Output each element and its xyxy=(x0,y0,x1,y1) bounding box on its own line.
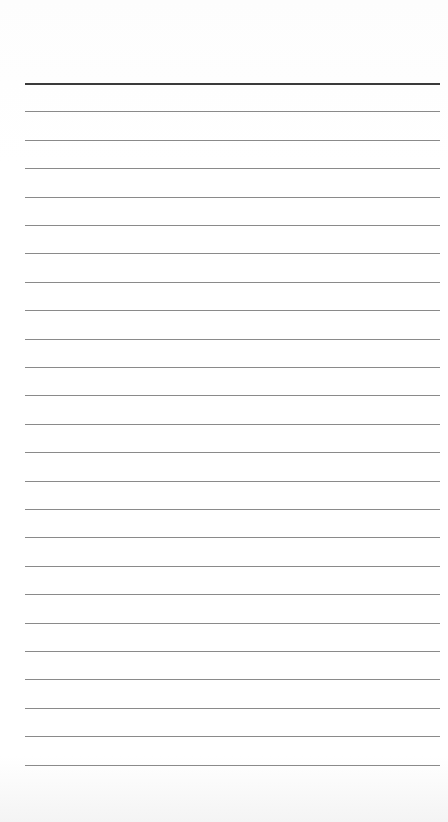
rule-line xyxy=(25,594,440,595)
rule-line xyxy=(25,509,440,510)
notepad-page xyxy=(0,0,448,822)
rule-line xyxy=(25,537,440,538)
rule-line xyxy=(25,651,440,652)
rule-line xyxy=(25,481,440,482)
rule-line xyxy=(25,708,440,709)
rule-line xyxy=(25,736,440,737)
rule-line xyxy=(25,282,440,283)
rule-line xyxy=(25,168,440,169)
rule-line xyxy=(25,566,440,567)
rule-line xyxy=(25,424,440,425)
rule-line xyxy=(25,225,440,226)
header-rule-line xyxy=(25,83,440,85)
rule-line xyxy=(25,765,440,766)
rule-line xyxy=(25,140,440,141)
rule-line xyxy=(25,452,440,453)
rule-line xyxy=(25,310,440,311)
rule-line xyxy=(25,679,440,680)
rule-line xyxy=(25,253,440,254)
rule-line xyxy=(25,395,440,396)
rule-line xyxy=(25,367,440,368)
rule-line xyxy=(25,111,440,112)
rule-line xyxy=(25,197,440,198)
rule-line xyxy=(25,623,440,624)
rule-line xyxy=(25,339,440,340)
